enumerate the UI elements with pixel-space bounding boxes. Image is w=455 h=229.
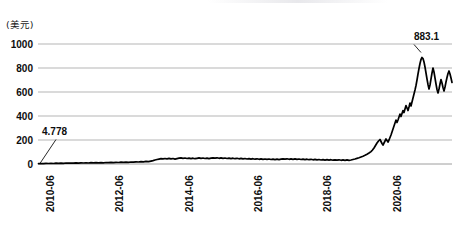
annotation-peak-value: 883.1 — [414, 31, 439, 42]
gridlines — [38, 44, 452, 164]
price-line — [39, 58, 453, 164]
x-tick-2016-06: 2016-06 — [253, 175, 264, 212]
x-tick-2010-06: 2010-06 — [45, 175, 56, 212]
leader-line-peak-value — [414, 45, 421, 53]
x-tick-2014-06: 2014-06 — [184, 175, 195, 212]
x-tick-2018-06: 2018-06 — [322, 175, 333, 212]
annotation-leader-lines — [40, 45, 421, 164]
chart-container: (美元) 1000 800 600 400 200 0 4.778 883.1 … — [0, 0, 455, 229]
annotation-start-value: 4.778 — [42, 126, 67, 137]
x-tick-2020-06: 2020-06 — [392, 175, 403, 212]
data-series-price — [39, 58, 453, 164]
x-tick-2012-06: 2012-06 — [114, 175, 125, 212]
leader-line-start-value — [40, 140, 56, 164]
plot-area — [0, 0, 455, 229]
